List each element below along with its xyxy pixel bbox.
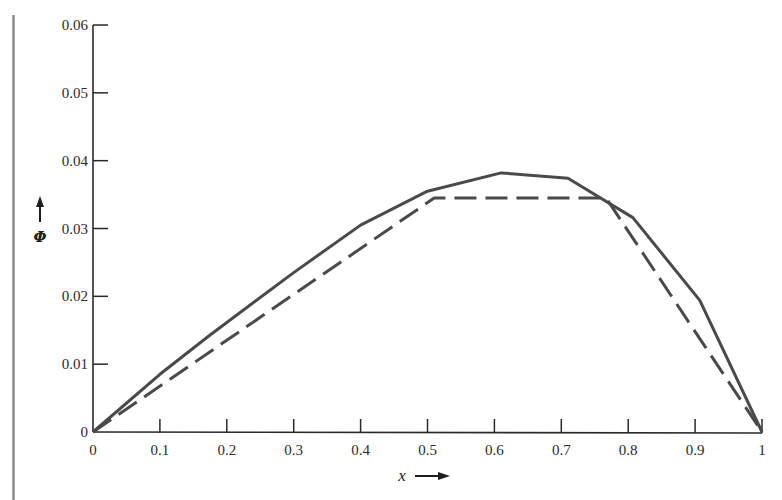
x-tick-label: 0.7 [552,442,571,458]
x-tick-label: 0.6 [485,442,504,458]
y-tick-label: 0 [81,424,89,440]
x-tick-label: 1 [758,442,766,458]
x-tick-label: 0.5 [418,442,437,458]
y-tick-label: 0.06 [62,17,89,33]
y-tick-label: 0.01 [62,356,88,372]
x-axis-label: x [397,466,406,485]
x-tick-label: 0 [89,442,97,458]
x-tick-label: 0.3 [284,442,303,458]
x-tick-label: 0.2 [217,442,236,458]
y-tick-label: 0.02 [62,288,88,304]
x-tick-label: 0.4 [351,442,370,458]
x-axis-ticks: 00.10.20.30.40.50.60.70.80.91 [89,419,766,458]
y-axis-label-group: Φ [33,196,46,246]
axes [93,25,762,433]
series-dashed-line [93,198,762,432]
x-axis-label-group: x [397,466,450,485]
up-arrow-head-icon [36,196,44,207]
series-solid-line [93,173,762,432]
y-axis-label: Φ [33,228,46,246]
y-tick-label: 0.04 [62,153,89,169]
x-tick-label: 0.9 [686,442,705,458]
right-arrow-head-icon [438,472,450,480]
x-tick-label: 0.8 [619,442,638,458]
x-tick-label: 0.1 [151,442,170,458]
data-series [93,173,762,432]
y-axis-ticks: 00.010.020.030.040.050.06 [62,17,108,440]
y-tick-label: 0.03 [62,221,88,237]
y-tick-label: 0.05 [62,85,88,101]
chart: 00.010.020.030.040.050.06 00.10.20.30.40… [0,0,782,500]
